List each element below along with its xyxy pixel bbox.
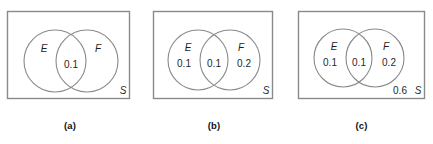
value-f-only-c: 0.2: [382, 57, 396, 68]
set-f-label-c: F: [383, 41, 390, 52]
venn-diagram-figure: E F 0.1 S (a) E F 0.1 0.1 0.2 S (b) E F: [0, 0, 433, 144]
set-e-label-b: E: [185, 42, 192, 53]
universe-label-c: S: [415, 85, 422, 96]
panel-caption-b: (b): [145, 120, 283, 132]
universe-label-a: S: [120, 85, 127, 96]
set-e-label-c: E: [331, 41, 338, 52]
value-intersection-c: 0.1: [352, 57, 366, 68]
value-intersection-b: 0.1: [207, 58, 221, 69]
value-e-only-b: 0.1: [177, 58, 191, 69]
venn-panel-c: E F 0.1 0.1 0.2 0.6 S (c): [290, 0, 433, 144]
set-f-label-b: F: [238, 42, 245, 53]
venn-panel-b: E F 0.1 0.1 0.2 S (b): [145, 0, 283, 144]
set-e-label-a: E: [41, 43, 48, 54]
value-outside-c: 0.6: [393, 85, 407, 96]
value-intersection-a: 0.1: [64, 59, 78, 70]
venn-svg-c: E F 0.1 0.1 0.2 0.6 S: [290, 0, 433, 118]
value-f-only-b: 0.2: [237, 58, 251, 69]
panel-caption-c: (c): [290, 120, 433, 132]
universe-label-b: S: [263, 85, 270, 96]
venn-panel-a: E F 0.1 S (a): [0, 0, 140, 144]
panel-caption-a: (a): [0, 120, 140, 132]
venn-svg-b: E F 0.1 0.1 0.2 S: [145, 0, 283, 118]
set-f-label-a: F: [95, 43, 102, 54]
venn-svg-a: E F 0.1 S: [0, 0, 140, 118]
value-e-only-c: 0.1: [323, 57, 337, 68]
